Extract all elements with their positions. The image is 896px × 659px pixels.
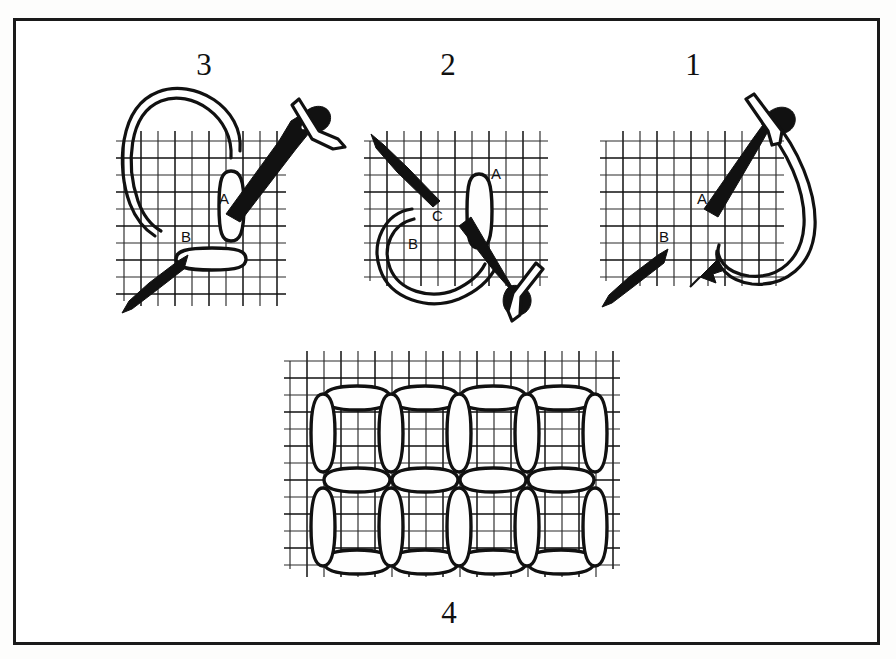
figure-frame: 3 [13, 18, 880, 645]
panel-4-stitch-pattern [311, 386, 607, 574]
panel-4-number: 4 [429, 595, 469, 631]
panel-4-illustration [16, 21, 883, 648]
